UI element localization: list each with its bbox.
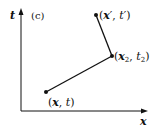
worldline [46,15,112,92]
panel-label: (c) [31,10,45,21]
point-label-x-t: (x, t) [48,96,75,109]
x-axis-label: x [139,115,147,128]
spacetime-diagram: t (c) x (x, t) (x2, t2) (x′, t′) [0,0,155,130]
point-x-t [44,90,48,94]
segment-p1-p2 [46,56,112,92]
t-axis-label: t [10,9,15,22]
point-label-x2-t2: (x2, t2) [114,50,150,64]
x-axis-arrow-icon [141,109,148,114]
t-axis-arrow-icon [19,8,24,15]
point-label-xprime-tprime: (x′, t′) [99,9,131,22]
point-xprime-tprime [94,13,98,17]
